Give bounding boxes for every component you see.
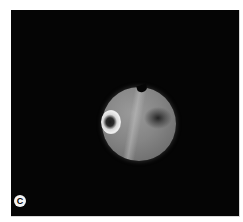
fundus-notch: [136, 84, 147, 93]
optic-disc: [101, 110, 121, 134]
fundus-image: [102, 87, 176, 161]
panel-label-badge: C: [14, 195, 26, 207]
image-frame: [11, 10, 240, 217]
